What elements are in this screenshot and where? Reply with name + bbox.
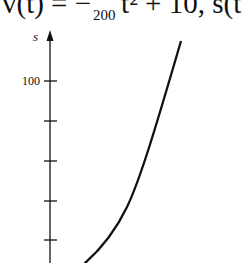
y-axis-label: s bbox=[33, 29, 38, 45]
y-axis bbox=[44, 30, 57, 263]
s-curve bbox=[84, 41, 181, 263]
axis-arrow-icon bbox=[47, 30, 54, 41]
y-tick-label-100: 100 bbox=[22, 74, 40, 89]
